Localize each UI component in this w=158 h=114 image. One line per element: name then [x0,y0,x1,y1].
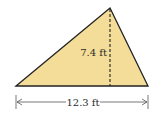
height-label: 7.4 ft [80,47,107,58]
base-label: 12.3 ft [66,97,99,108]
triangle-figure: 7.4 ft 12.3 ft [0,0,158,114]
